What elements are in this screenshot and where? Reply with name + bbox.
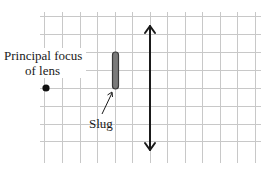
focus-label-line2: of lens bbox=[25, 63, 60, 78]
slug-label: Slug bbox=[89, 116, 113, 131]
slug-pointer-arrow-icon bbox=[102, 92, 113, 114]
optics-diagram: Principal focus of lens Slug bbox=[0, 0, 261, 179]
principal-focus-point bbox=[42, 84, 49, 91]
focus-label-line1: Principal focus bbox=[4, 48, 82, 63]
slug-object bbox=[113, 52, 119, 89]
